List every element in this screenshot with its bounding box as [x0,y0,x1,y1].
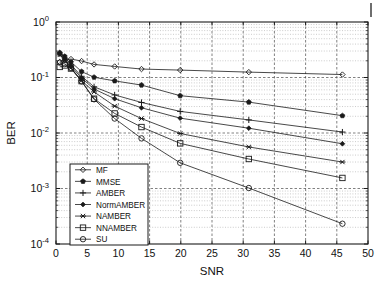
edge-artifact-mark [370,3,372,17]
x-tick-label: 15 [144,247,156,259]
chart-root: 0510152025303540455010010-110-210-310-4S… [0,0,390,303]
x-tick-label: 0 [53,247,59,259]
ber-vs-snr-chart: 0510152025303540455010010-110-210-310-4S… [0,0,390,303]
x-axis-title: SNR [200,265,224,277]
x-tick-label: 25 [206,247,218,259]
legend-label: NAMBER [96,212,131,221]
legend: MFMMSEAMBERNormAMBERNAMBERNNAMBERSU [70,164,148,245]
x-tick-label: 50 [362,247,374,259]
x-tick-label: 40 [300,247,312,259]
x-tick-label: 30 [237,247,249,259]
x-tick-label: 5 [84,247,90,259]
x-tick-label: 45 [331,247,343,259]
legend-label: NormAMBER [96,201,145,210]
x-tick-label: 10 [113,247,125,259]
legend-label: NNAMBER [96,224,137,233]
x-tick-label: 20 [175,247,187,259]
legend-label: MMSE [96,178,121,187]
legend-label: SU [96,235,107,244]
x-tick-label: 35 [269,247,281,259]
y-axis-title: BER [5,121,17,145]
legend-label: AMBER [96,189,125,198]
legend-label: MF [96,166,108,175]
